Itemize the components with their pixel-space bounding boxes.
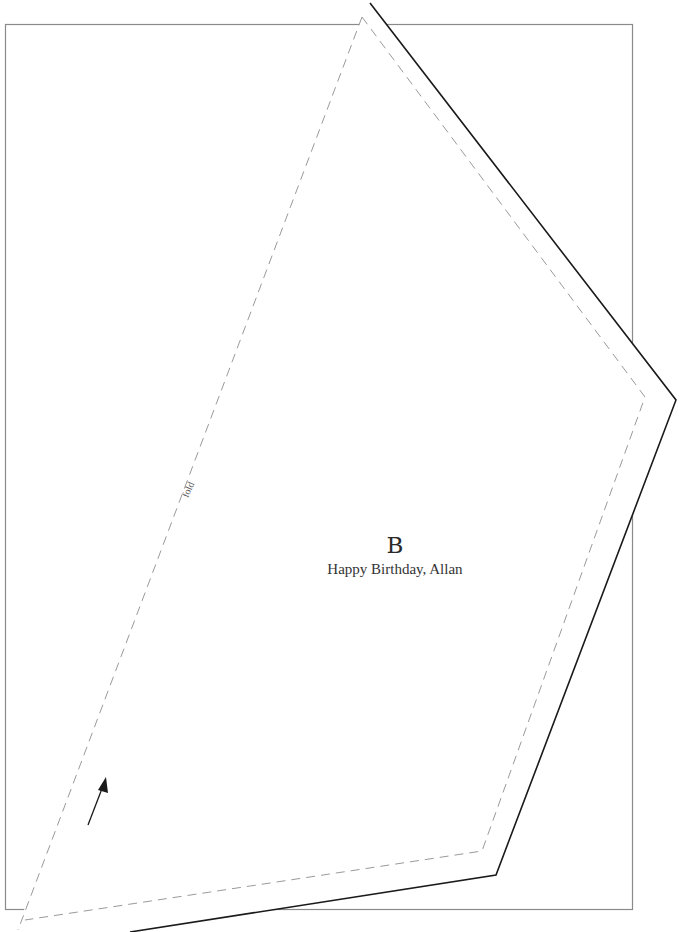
shape-fill [18, 3, 676, 932]
section-letter: B [340, 533, 450, 557]
birthday-message: Happy Birthday, Allan [300, 560, 490, 578]
template-sheet [0, 0, 681, 932]
